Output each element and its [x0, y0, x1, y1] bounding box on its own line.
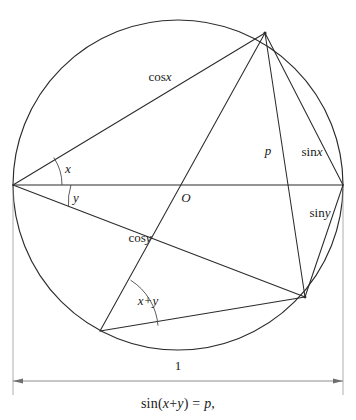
angle-arc-y [68, 185, 71, 207]
segment-top-to-bottom-left [100, 33, 265, 331]
label-p: p [264, 143, 272, 158]
dimension-arrow-right [333, 378, 343, 383]
geometry-diagram: cosx cosy sinx siny p O x y x+y 1 [0, 0, 356, 420]
caption-function: sin [141, 396, 158, 411]
segment-left-to-top [13, 33, 265, 185]
caption-close-paren: ) [184, 396, 189, 411]
segment-left-to-bottom-right [13, 185, 305, 297]
segment-bottom-left-to-bottom-right [100, 297, 305, 331]
label-angle-x-plus-y: x+y [137, 293, 159, 308]
label-sin-y: siny [310, 205, 331, 220]
label-angle-x: x [64, 161, 71, 176]
label-diameter-one: 1 [175, 358, 182, 373]
vertex-dot-top [263, 31, 266, 34]
label-angle-y: y [71, 190, 79, 205]
figure-caption: sin(x+y) = p, [0, 396, 356, 412]
label-sin-x: sinx [302, 144, 323, 159]
caption-comma: , [211, 396, 215, 411]
caption-equals: = [192, 396, 200, 411]
vertex-dot-bottom-right [304, 296, 307, 299]
segment-right-to-bottom-right [305, 185, 343, 297]
label-center-o: O [181, 190, 191, 205]
angle-arc-x [54, 158, 62, 185]
label-cos-y: cosy [128, 230, 151, 245]
figure-root: cosx cosy sinx siny p O x y x+y 1 sin(x+… [0, 0, 356, 420]
dimension-arrow-left [13, 378, 23, 383]
label-cos-x: cosx [148, 69, 171, 84]
